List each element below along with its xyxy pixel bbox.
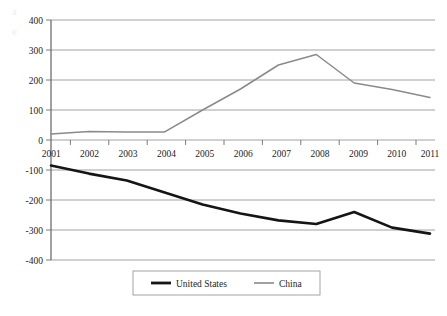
legend-label-china: China	[279, 279, 302, 289]
y-axis-labels: 400 300 200 100 0 -100 -200 -300 -400	[26, 16, 44, 266]
y-tick-label: 400	[29, 16, 44, 26]
y-tick-label: 0	[38, 136, 43, 146]
x-tick-label: 2011	[421, 149, 440, 159]
y-axis-tickmarks	[46, 20, 51, 260]
y-tick-label: -100	[26, 166, 44, 176]
x-tick-label: 2003	[119, 149, 138, 159]
y-tick-label: -200	[26, 196, 44, 206]
x-tick-label: 2004	[157, 149, 176, 159]
x-tick-label: 2010	[387, 149, 406, 159]
y-tick-label: 100	[29, 106, 44, 116]
y-tick-label: 300	[29, 46, 44, 56]
chart-legend: United States China	[133, 271, 320, 295]
x-tick-label: 2008	[311, 149, 330, 159]
y-tick-label: -300	[26, 226, 44, 236]
x-tick-label: 2007	[272, 149, 291, 159]
x-tick-label: 2001	[42, 149, 61, 159]
x-tick-label: 2006	[234, 149, 253, 159]
x-tick-label: 2005	[195, 149, 214, 159]
legend-label-united-states: United States	[176, 279, 227, 289]
line-chart: 400 300 200 100 0 -100 -200 -300 -400 20…	[0, 0, 447, 316]
x-tick-label: 2002	[80, 149, 99, 159]
y-tick-label: -400	[26, 256, 44, 266]
y-tick-label: 200	[29, 76, 44, 86]
x-tick-label: 2009	[349, 149, 368, 159]
